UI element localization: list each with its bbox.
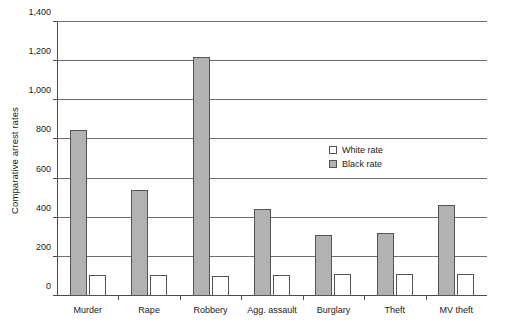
bar-black-rate (438, 205, 455, 296)
x-tick-mark (426, 296, 427, 300)
x-tick-mark (303, 296, 304, 300)
bar-black-rate (377, 233, 394, 296)
y-axis-title: Comparative arrest rates (9, 61, 20, 261)
bar-black-rate (193, 57, 210, 296)
y-tick-label: 0 (46, 281, 51, 291)
y-tick-label: 400 (36, 203, 51, 213)
y-tick-label: 800 (36, 124, 51, 134)
bar-group: MV theft (426, 22, 487, 296)
legend-item-white-rate: White rate (329, 143, 383, 157)
y-tick-label: 1,400 (28, 7, 51, 17)
legend-swatch-black-rate (329, 160, 337, 168)
x-tick-mark (364, 296, 365, 300)
legend-label-white-rate: White rate (342, 145, 383, 155)
bar-group: Rape (118, 22, 179, 296)
plot-area: 02004006008001,0001,2001,400 MurderRapeR… (57, 22, 487, 296)
legend: White rate Black rate (329, 143, 383, 171)
y-tick-label: 600 (36, 164, 51, 174)
bar-white-rate (396, 274, 413, 296)
bar-black-rate (70, 130, 87, 296)
y-tick-label: 200 (36, 242, 51, 252)
x-tick-mark (241, 296, 242, 300)
x-axis-label: Agg. assault (247, 305, 297, 315)
bar-white-rate (89, 275, 106, 296)
bar-black-rate (315, 235, 332, 296)
x-axis-label: Rape (138, 305, 160, 315)
legend-label-black-rate: Black rate (342, 159, 382, 169)
y-tick-label: 1,000 (28, 85, 51, 95)
bar-white-rate (334, 274, 351, 296)
bar-group: Robbery (180, 22, 241, 296)
bar-chart: Comparative arrest rates 02004006008001,… (0, 0, 509, 329)
legend-swatch-white-rate (329, 146, 337, 154)
bar-white-rate (212, 276, 229, 296)
bar-black-rate (131, 190, 148, 296)
bar-black-rate (254, 209, 271, 296)
bar-white-rate (273, 275, 290, 296)
x-axis-label: Burglary (317, 305, 351, 315)
legend-item-black-rate: Black rate (329, 157, 383, 171)
bar-groups: MurderRapeRobberyAgg. assaultBurglaryThe… (57, 22, 487, 296)
x-axis-label: Theft (385, 305, 406, 315)
x-axis-label: MV theft (439, 305, 473, 315)
bar-group: Agg. assault (241, 22, 302, 296)
x-tick-mark (180, 296, 181, 300)
x-axis-label: Robbery (194, 305, 228, 315)
bar-white-rate (150, 275, 167, 296)
y-tick-label: 1,200 (28, 46, 51, 56)
bar-group: Murder (57, 22, 118, 296)
x-tick-mark (118, 296, 119, 300)
x-axis-label: Murder (73, 305, 102, 315)
bar-white-rate (457, 274, 474, 296)
